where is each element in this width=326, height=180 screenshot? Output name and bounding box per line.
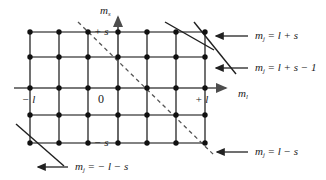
grid-node <box>173 140 178 145</box>
callout-mj-second-sub: j <box>263 67 265 74</box>
grid-node <box>202 85 207 90</box>
grid-node <box>56 85 61 90</box>
grid-node <box>56 54 61 59</box>
axis-label-ml-main: m <box>238 87 246 99</box>
grid-node <box>144 54 149 59</box>
grid-node <box>85 112 90 117</box>
callout-mj-top-sub: j <box>263 35 265 42</box>
grid-node <box>85 85 90 90</box>
callout-mj-br-main: m <box>255 145 263 157</box>
grid-node <box>27 54 32 59</box>
grid-node <box>115 85 120 90</box>
tick-label-y-top: + s <box>94 26 108 37</box>
grid-node <box>173 29 178 34</box>
callout-mj-top-rhs: = l + s <box>265 29 298 41</box>
grid-node <box>27 29 32 34</box>
grid-node <box>85 29 90 34</box>
grid-node <box>202 140 207 145</box>
axis-label-ms-main: m <box>100 4 108 16</box>
grid-node <box>144 112 149 117</box>
grid-node <box>144 85 149 90</box>
callout-mj-second-rhs: = l + s − 1 <box>265 61 317 73</box>
diagonal-line-second <box>194 22 236 74</box>
grid-node <box>85 54 90 59</box>
callout-mj-top-main: m <box>255 29 263 41</box>
callout-mj-bl-sub: j <box>83 166 85 173</box>
axis-label-ms-sub: s <box>108 10 111 17</box>
callout-label-mj-bottom-right: mj = l − s <box>255 146 298 157</box>
grid-node <box>115 54 120 59</box>
axis-label-ms: ms <box>100 5 111 16</box>
grid-node <box>115 29 120 34</box>
grid-node <box>173 112 178 117</box>
callout-mj-second-main: m <box>255 61 263 73</box>
grid-node <box>144 29 149 34</box>
callout-mj-bl-rhs: = − l − s <box>85 160 128 172</box>
grid-node <box>27 85 32 90</box>
grid-node <box>85 140 90 145</box>
callout-label-mj-top: mj = l + s <box>255 30 298 41</box>
tick-label-x-left: − l <box>22 94 35 105</box>
diagonal-line-bottom-left <box>16 124 64 166</box>
diagonal-line-top <box>165 22 214 50</box>
grid-node <box>27 140 32 145</box>
grid-node <box>115 112 120 117</box>
grid-node <box>56 29 61 34</box>
grid-node <box>173 54 178 59</box>
callout-arrows <box>38 36 248 167</box>
tick-label-y-bottom: − s <box>94 137 108 148</box>
axis-label-ml: ml <box>238 88 248 99</box>
callout-label-mj-second: mj = l + s − 1 <box>255 62 316 73</box>
grid-node <box>27 112 32 117</box>
callout-label-mj-bottom-left: mj = − l − s <box>75 161 128 172</box>
tick-label-x-origin: 0 <box>98 93 104 105</box>
grid-node <box>115 140 120 145</box>
grid-node <box>56 140 61 145</box>
grid-node <box>202 54 207 59</box>
grid-node <box>202 29 207 34</box>
grid-node <box>173 85 178 90</box>
callout-mj-br-rhs: = l − s <box>265 145 298 157</box>
axis-label-ml-sub: l <box>246 93 248 100</box>
callout-mj-br-sub: j <box>263 151 265 158</box>
figure-container: ms ml − l 0 + l + s − s mj = l + s mj = … <box>0 0 326 180</box>
tick-label-x-right: + l <box>195 94 208 105</box>
grid-node <box>202 112 207 117</box>
grid-node <box>144 140 149 145</box>
callout-mj-bl-main: m <box>75 160 83 172</box>
grid-node <box>56 112 61 117</box>
